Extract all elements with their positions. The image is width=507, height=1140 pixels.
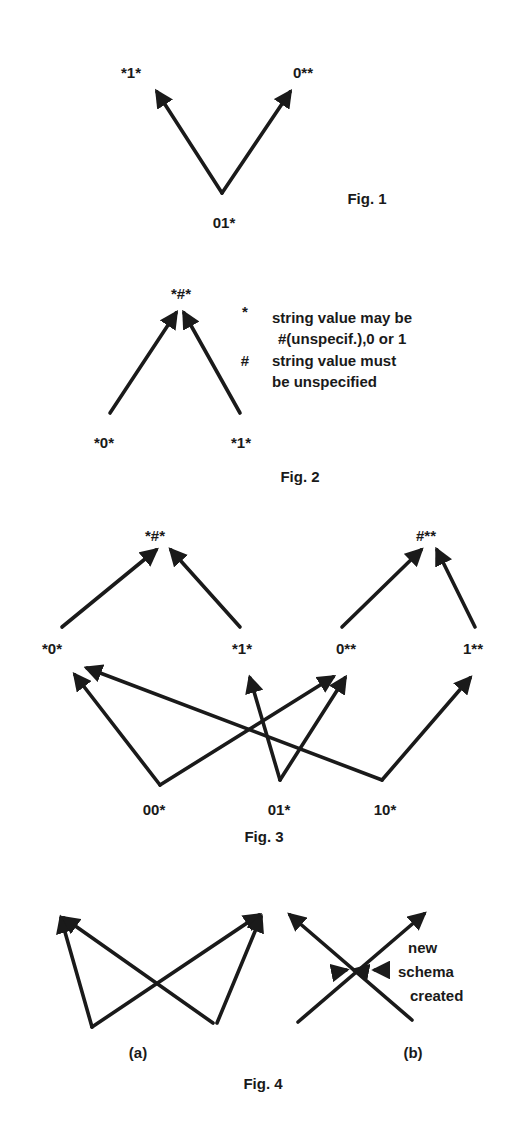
fig4b-arrow-1 <box>290 915 412 1020</box>
fig3-arrow-00-to-0xx <box>160 677 333 785</box>
legend-hash-symbol: # <box>238 351 252 371</box>
fig3-arrow-a <box>62 550 156 627</box>
legend-star-text-1: string value may be <box>272 308 412 328</box>
fig2-node-top: *#* <box>171 285 191 302</box>
fig2-legend: * string value may be #(unspecif.),0 or … <box>238 298 498 398</box>
fig4-note-line-1: new <box>398 936 463 960</box>
fig3-arrow-10-to-x0x <box>87 668 382 780</box>
fig4a-arrow-2 <box>92 915 259 1027</box>
fig3-mid-node-3: 0** <box>336 640 356 657</box>
fig4-caption: Fig. 4 <box>243 1075 282 1092</box>
fig2-arrows <box>110 313 240 413</box>
fig3-arrow-01-to-x1x <box>250 678 280 780</box>
fig3-bottom-arrows <box>75 668 470 785</box>
fig3-arrow-d <box>437 550 475 627</box>
fig2-node-right: *1* <box>231 434 251 451</box>
fig3-mid-node-2: *1* <box>232 640 252 657</box>
fig4-sub-a: (a) <box>129 1044 147 1061</box>
fig3-mid-node-4: 1** <box>463 640 483 657</box>
fig4b-node-mark-right <box>354 970 364 972</box>
legend-hash-text-2: be unspecified <box>272 372 377 392</box>
fig3-top-node-2: #** <box>416 527 436 544</box>
fig1-node-bottom: 01* <box>213 214 236 231</box>
fig4-sub-b: (b) <box>403 1044 422 1061</box>
fig1-arrows <box>157 92 290 193</box>
fig3-bottom-node-3: 10* <box>374 801 397 818</box>
fig2-node-left: *0* <box>94 434 114 451</box>
fig3-arrow-01-to-0xx <box>280 678 345 780</box>
fig1-node-left: *1* <box>121 64 141 81</box>
fig3-caption: Fig. 3 <box>244 828 283 845</box>
fig4-note-line-2: schema <box>398 960 463 984</box>
fig1-node-right: 0** <box>293 64 313 81</box>
fig4a-arrow-4 <box>217 917 261 1023</box>
fig4a-arrows <box>61 915 261 1027</box>
fig2-arrow-left <box>110 313 176 413</box>
fig1-caption: Fig. 1 <box>347 190 386 207</box>
legend-hash-text-1: string value must <box>272 351 396 371</box>
fig2-caption: Fig. 2 <box>280 468 319 485</box>
fig4-note-line-3: created <box>398 984 463 1008</box>
fig1-arrow-right <box>222 92 290 193</box>
fig3-arrow-c <box>342 550 421 627</box>
fig3-mid-node-1: *0* <box>42 640 62 657</box>
fig3-bottom-node-1: 00* <box>143 801 166 818</box>
fig3-top-node-1: *#* <box>145 527 165 544</box>
fig4-note: new schema created <box>398 936 463 1008</box>
legend-star-text-2: #(unspecif.),0 or 1 <box>278 329 406 349</box>
fig2-arrow-right <box>184 313 240 413</box>
fig3-arrow-10-to-1xx <box>382 678 470 780</box>
legend-star-symbol: * <box>238 302 252 322</box>
fig4b-node-mark-left <box>336 970 346 972</box>
fig3-arrow-b <box>171 550 240 627</box>
fig1-arrow-left <box>157 92 222 193</box>
fig3-bottom-node-2: 01* <box>268 801 291 818</box>
fig3-top-arrows <box>62 550 475 627</box>
